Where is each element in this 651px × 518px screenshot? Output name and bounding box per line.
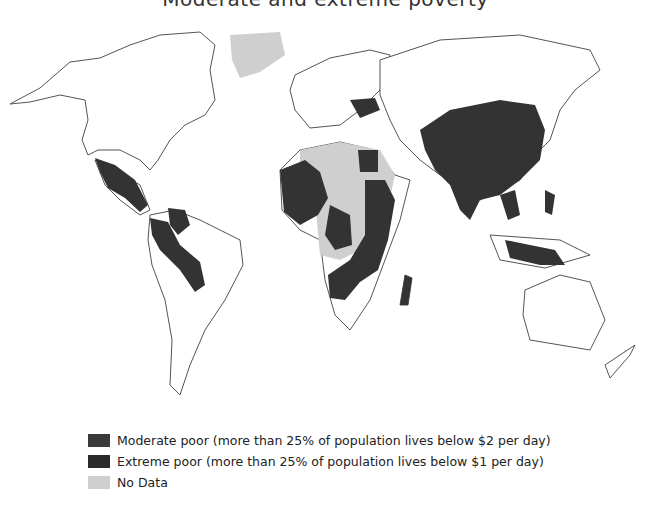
poor-south-asia	[420, 100, 545, 220]
poor-philippines	[545, 190, 555, 215]
legend-label: No Data	[117, 475, 168, 490]
world-poverty-map	[0, 0, 651, 420]
poor-egypt	[358, 150, 378, 172]
australia	[523, 275, 605, 350]
legend-item-moderate-poor: Moderate poor (more than 25% of populati…	[88, 430, 551, 451]
legend-label: Moderate poor (more than 25% of populati…	[117, 433, 551, 448]
legend-label: Extreme poor (more than 25% of populatio…	[117, 454, 544, 469]
europe	[290, 50, 390, 128]
poor-southeast-asia	[500, 190, 520, 220]
greenland	[230, 32, 285, 78]
legend-item-no-data: No Data	[88, 472, 551, 493]
legend-swatch-no-data	[88, 476, 110, 489]
new-zealand	[605, 345, 635, 378]
legend-swatch-extreme	[88, 455, 110, 468]
map-legend: Moderate poor (more than 25% of populati…	[88, 430, 551, 493]
legend-swatch-moderate	[88, 434, 110, 447]
north-america	[10, 32, 215, 170]
poor-ukraine	[350, 98, 380, 118]
poor-madagascar	[400, 275, 412, 305]
legend-item-extreme-poor: Extreme poor (more than 25% of populatio…	[88, 451, 551, 472]
